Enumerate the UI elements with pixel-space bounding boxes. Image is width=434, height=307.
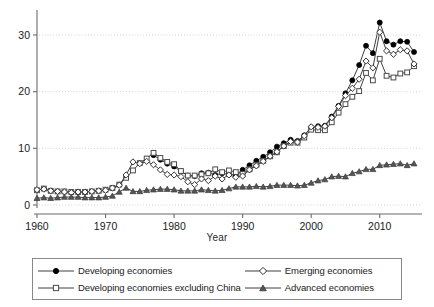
legend-entry-developing-economies-excluding-china[interactable]: Developing economies excluding China (37, 279, 244, 296)
plot-area: 0102030196019701980199020002010 (0, 0, 434, 247)
legend-label: Developing economies (75, 265, 172, 276)
legend-entry-advanced-economies[interactable]: Advanced economies (244, 279, 397, 296)
svg-text:10: 10 (18, 142, 30, 154)
svg-text:0: 0 (24, 199, 30, 211)
series-developing-economies (151, 20, 416, 179)
legend-key-filled-circle (37, 265, 75, 277)
legend-row: Developing economies excluding China Adv… (37, 279, 397, 296)
svg-text:1970: 1970 (94, 220, 118, 232)
axes (33, 10, 422, 218)
legend-label: Developing economies excluding China (75, 282, 241, 293)
chart-legend: Developing economies Emerging economies … (32, 258, 402, 300)
legend-label: Advanced economies (282, 282, 374, 293)
x-axis-label: Year (0, 232, 434, 243)
legend-entry-emerging-economies[interactable]: Emerging economies (244, 262, 397, 279)
svg-text:30: 30 (18, 29, 30, 41)
legend-key-filled-triangle (244, 282, 282, 294)
svg-text:1980: 1980 (162, 220, 186, 232)
tick-labels: 0102030196019701980199020002010 (18, 29, 391, 232)
data-series (34, 20, 417, 200)
legend-key-open-square (37, 282, 75, 294)
svg-text:1990: 1990 (231, 220, 255, 232)
legend-label: Emerging economies (282, 265, 372, 276)
svg-text:2010: 2010 (368, 220, 392, 232)
chart-figure: 0102030196019701980199020002010 Year Dev… (0, 0, 434, 307)
legend-key-open-diamond (244, 265, 282, 277)
line-chart-svg: 0102030196019701980199020002010 (0, 0, 434, 247)
svg-text:20: 20 (18, 85, 30, 97)
legend-entry-developing-economies[interactable]: Developing economies (37, 262, 244, 279)
svg-text:2000: 2000 (300, 220, 324, 232)
svg-text:1960: 1960 (25, 220, 49, 232)
legend-row: Developing economies Emerging economies (37, 262, 397, 279)
